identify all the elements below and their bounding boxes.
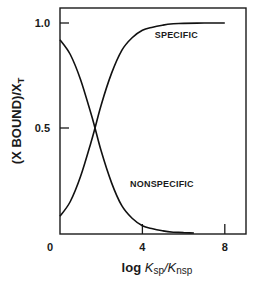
x-tick-label: 8 [222, 241, 228, 253]
x-axis-title: log Ksp/Knsp [122, 260, 193, 276]
chart: 0.51.0 048 SPECIFICNONSPECIFIC (X BOUND)… [0, 0, 254, 283]
x-tick-label: 0 [47, 241, 53, 253]
curves [60, 23, 225, 233]
curve-nonspecific [60, 40, 194, 233]
annotations: SPECIFICNONSPECIFIC [130, 30, 198, 189]
annotation-specific: SPECIFIC [155, 30, 198, 40]
annotation-nonspecific: NONSPECIFIC [130, 179, 194, 189]
plot-frame [60, 8, 246, 234]
y-tick-label: 1.0 [35, 17, 50, 29]
y-tick-label: 0.5 [35, 122, 50, 134]
y-axis-title: (X BOUND)/XT [9, 77, 26, 164]
x-axis-ticks: 048 [47, 224, 228, 253]
x-tick-label: 4 [139, 241, 146, 253]
y-axis-ticks: 0.51.0 [35, 17, 69, 134]
